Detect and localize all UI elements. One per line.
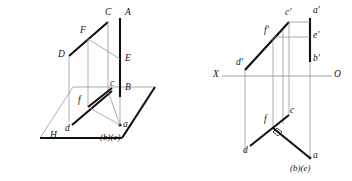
segment-f-c (88, 88, 112, 107)
label-X-axis: X (213, 70, 219, 80)
projection-lines (245, 22, 310, 158)
label-C: C (105, 8, 111, 18)
projector-f-e (88, 39, 120, 59)
segment-f-a (88, 107, 120, 125)
geometry-drawing (0, 0, 352, 181)
label-H-plane: H (50, 131, 57, 141)
label-be-orthographic: (b)(e) (290, 164, 310, 173)
label-a: a (123, 120, 128, 130)
line-fa-horizontal (273, 128, 310, 158)
label-e-prime: e' (313, 31, 319, 41)
line-dfc-horizontal (250, 115, 289, 146)
label-f-lower: f (264, 115, 267, 125)
label-d-lower: d (243, 146, 248, 156)
label-be-pictorial: (b)(e) (100, 133, 120, 142)
label-c: c (110, 79, 114, 89)
label-d-prime: d' (236, 58, 243, 68)
label-B: B (125, 83, 131, 93)
label-A: A (125, 8, 131, 18)
vertical-plane-dfc (69, 22, 112, 125)
label-c-prime: c' (285, 8, 291, 18)
label-f-prime: f' (264, 26, 269, 36)
label-E: E (125, 54, 131, 64)
line-ab-pictorial (119, 18, 122, 127)
label-f: f (78, 96, 81, 106)
label-c-lower: c (290, 106, 294, 116)
label-F: F (80, 26, 86, 36)
projector-c-a (108, 91, 120, 125)
label-d: d (65, 124, 70, 134)
point-a-horizontal (309, 157, 312, 160)
figure-canvas: C A F D E c B f d a (b)(e) H c' a' f' e'… (0, 0, 352, 181)
label-a-lower: a (313, 151, 318, 161)
label-O-axis: O (334, 70, 341, 80)
label-a-prime: a' (313, 6, 320, 16)
label-b-prime: b' (313, 54, 320, 64)
label-D: D (58, 50, 65, 60)
